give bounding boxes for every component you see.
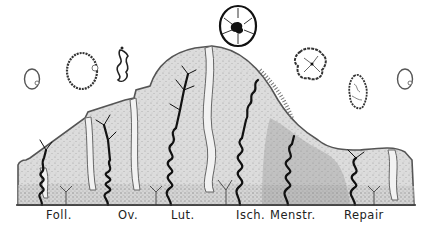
label-ischemic-phase: Isch.: [236, 208, 265, 222]
follicle-new-icon: [398, 69, 413, 89]
label-menstrual-phase: Menstr.: [270, 208, 316, 222]
endometrial-cycle-diagram: Foll. Ov. Lut. Isch. Menstr. Repair: [0, 0, 424, 228]
label-repair-phase: Repair: [344, 208, 384, 222]
label-luteal-phase: Lut.: [171, 208, 195, 222]
ruptured-follicle-icon: [117, 47, 128, 82]
corpus-regressing-icon: [295, 48, 326, 79]
follicle-large-icon: [67, 53, 98, 89]
corpus-luteum-icon: [220, 6, 256, 46]
corpus-albicans-icon: [349, 75, 367, 108]
label-ovulation-phase: Ov.: [118, 208, 138, 222]
label-follicular-phase: Foll.: [46, 208, 72, 222]
diagram-illustration: [0, 0, 424, 228]
follicle-small-icon: [25, 69, 40, 89]
